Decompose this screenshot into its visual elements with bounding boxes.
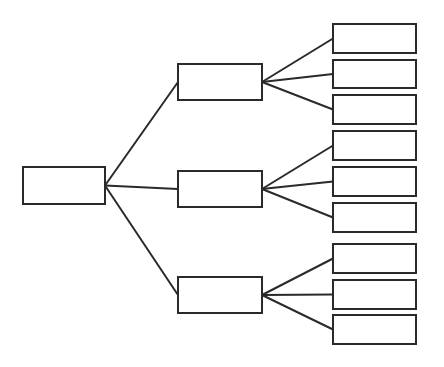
level1-node-n2-box: [178, 171, 262, 207]
edge-n1-n1c: [262, 82, 333, 110]
edge-root-n1: [105, 82, 178, 186]
level2-node-n1b-box: [333, 60, 416, 88]
level2-node-n3b-box: [333, 280, 416, 309]
level2-node-n1c: [333, 95, 416, 124]
level2-node-n3a: [333, 244, 416, 273]
level1-node-n2: [178, 171, 262, 207]
level1-node-n3-box: [178, 277, 262, 313]
nodes: [23, 24, 416, 344]
level2-node-n2c-box: [333, 203, 416, 232]
edge-n3-n3a: [262, 259, 333, 296]
root-node: [23, 167, 105, 204]
level2-node-n2a-box: [333, 131, 416, 160]
level1-node-n1-box: [178, 64, 262, 100]
level2-node-n3a-box: [333, 244, 416, 273]
level2-node-n1a: [333, 24, 416, 53]
edge-root-n3: [105, 186, 178, 296]
level2-node-n3c: [333, 315, 416, 344]
root-node-box: [23, 167, 105, 204]
level2-node-n1c-box: [333, 95, 416, 124]
tree-diagram: [0, 0, 444, 367]
level2-node-n2c: [333, 203, 416, 232]
level2-node-n2b: [333, 167, 416, 196]
level2-node-n3b: [333, 280, 416, 309]
edge-root-n2: [105, 186, 178, 190]
level2-node-n3c-box: [333, 315, 416, 344]
edge-n2-n2c: [262, 189, 333, 218]
level2-node-n2b-box: [333, 167, 416, 196]
level2-node-n1a-box: [333, 24, 416, 53]
edge-n3-n3c: [262, 295, 333, 330]
level2-node-n1b: [333, 60, 416, 88]
level2-node-n2a: [333, 131, 416, 160]
level1-node-n3: [178, 277, 262, 313]
edge-n3-n3b: [262, 295, 333, 296]
level1-node-n1: [178, 64, 262, 100]
